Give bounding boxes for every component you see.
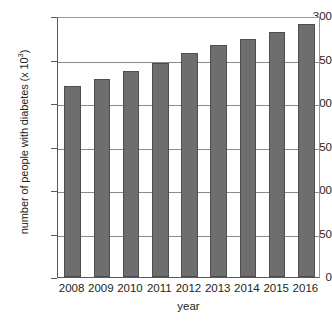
bar-chart: number of people with diabetes (x 103) 0…	[0, 0, 332, 322]
bar	[94, 79, 111, 277]
y-axis-title-suffix: )	[18, 50, 30, 54]
x-axis-tick-label: 2011	[145, 282, 174, 294]
x-axis-tick-label: 2010	[115, 282, 144, 294]
bar	[64, 86, 81, 277]
bar	[152, 63, 169, 277]
plot-area	[57, 17, 320, 278]
x-axis-title: year	[57, 300, 320, 313]
x-axis-tick-label: 2015	[262, 282, 291, 294]
x-axis-tick-label: 2013	[203, 282, 232, 294]
x-axis-tick-label: 2008	[57, 282, 86, 294]
y-axis-tick	[51, 278, 57, 279]
y-axis-title: number of people with diabetes (x 103)	[16, 2, 32, 282]
bar	[123, 71, 140, 277]
bar	[269, 32, 286, 277]
y-axis-title-text: number of people with diabetes (x 10	[18, 57, 30, 234]
x-axis-tick-label: 2012	[174, 282, 203, 294]
x-axis-tick-label: 2009	[86, 282, 115, 294]
bar	[210, 45, 227, 277]
bar	[240, 39, 257, 277]
bar	[298, 24, 315, 277]
y-axis-title-exponent: 3	[16, 53, 25, 57]
x-axis-tick-label: 2014	[232, 282, 261, 294]
bar	[181, 53, 198, 278]
x-axis-tick-label: 2016	[291, 282, 320, 294]
